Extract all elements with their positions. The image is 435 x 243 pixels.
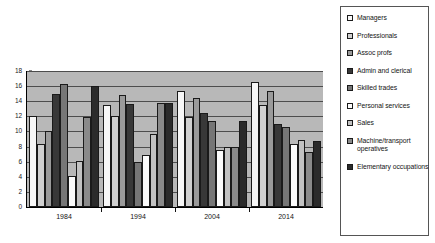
bar	[224, 147, 232, 207]
legend-item: Elementary occupations	[347, 163, 429, 172]
legend-item: Personal services	[347, 102, 429, 111]
legend-item-label: Assoc profs	[357, 49, 392, 58]
bars-layer	[27, 71, 323, 207]
legend-item-label: Elementary occupations	[357, 163, 428, 172]
bar	[239, 121, 247, 207]
legend-item: Admin and clerical	[347, 67, 429, 76]
bar	[111, 116, 119, 207]
legend-item: Machine/transport operatives	[347, 137, 429, 154]
bar	[231, 147, 239, 207]
y-axis-tick-label: 10	[15, 128, 22, 135]
bar	[68, 176, 76, 207]
legend-item: Assoc profs	[347, 49, 429, 58]
bar	[103, 105, 111, 207]
bar	[313, 141, 321, 207]
bar	[165, 103, 173, 207]
y-axis-tick-label: 0	[18, 204, 22, 211]
legend-item-label: Skilled trades	[357, 84, 397, 93]
legend-item: Skilled trades	[347, 84, 429, 93]
legend-item-label: Managers	[357, 14, 387, 23]
bar	[216, 150, 224, 207]
bar	[274, 124, 282, 207]
x-axis-tick-label: 1994	[130, 213, 146, 220]
bar	[185, 117, 193, 207]
y-axis-tick-label: 12	[15, 113, 22, 120]
legend-item-label: Admin and clerical	[357, 67, 412, 76]
x-axis-tick-label: 2014	[278, 213, 294, 220]
legend-item-label: Machine/transport operatives	[357, 137, 429, 154]
bar	[119, 95, 127, 207]
bar	[134, 162, 142, 207]
bar	[251, 82, 259, 207]
legend-swatch-icon	[347, 164, 353, 170]
legend: ManagersProfessionalsAssoc profsAdmin an…	[340, 6, 429, 236]
bar	[126, 104, 134, 207]
bar	[150, 134, 158, 207]
bar-chart: 181614121086420 1984199420042014 Manager…	[0, 0, 435, 243]
legend-swatch-icon	[347, 120, 353, 126]
bar	[298, 140, 306, 207]
bar	[259, 105, 267, 207]
legend-swatch-icon	[347, 103, 353, 109]
legend-item: Professionals	[347, 32, 429, 41]
y-axis-tick-label: 8	[18, 143, 22, 150]
y-axis-tick-label: 2	[18, 189, 22, 196]
x-axis-tick-mark	[101, 208, 102, 212]
legend-item: Managers	[347, 14, 429, 23]
y-axis: 181614121086420	[6, 60, 22, 197]
y-axis-tick-label: 14	[15, 98, 22, 105]
x-axis-tick-label: 2004	[204, 213, 220, 220]
bar	[52, 94, 60, 207]
bar	[76, 161, 84, 207]
legend-item: Sales	[347, 119, 429, 128]
y-axis-tick-label: 16	[15, 83, 22, 90]
legend-item-label: Professionals	[357, 32, 397, 41]
bar	[193, 98, 201, 207]
legend-swatch-icon	[347, 138, 353, 144]
legend-swatch-icon	[347, 68, 353, 74]
legend-item-label: Sales	[357, 119, 374, 128]
bar	[142, 155, 150, 207]
legend-items: ManagersProfessionalsAssoc profsAdmin an…	[347, 14, 429, 180]
x-axis-tick-label: 1984	[56, 213, 72, 220]
bar	[60, 84, 68, 207]
x-axis-tick-mark	[249, 208, 250, 212]
bar	[290, 144, 298, 207]
legend-swatch-icon	[347, 50, 353, 56]
y-axis-tick-label: 18	[15, 68, 22, 75]
bar	[91, 86, 99, 207]
bar	[29, 116, 37, 207]
bar	[37, 144, 45, 207]
plot-area	[27, 71, 323, 207]
plot-region: 181614121086420 1984199420042014	[0, 60, 330, 230]
bar	[267, 91, 275, 207]
legend-swatch-icon	[347, 33, 353, 39]
legend-swatch-icon	[347, 85, 353, 91]
bar	[200, 113, 208, 207]
y-axis-tick-label: 4	[18, 174, 22, 181]
bar	[282, 127, 290, 207]
bar	[177, 91, 185, 207]
bar	[83, 117, 91, 207]
bar	[45, 131, 53, 207]
bar	[208, 121, 216, 207]
legend-item-label: Personal services	[357, 102, 410, 111]
legend-swatch-icon	[347, 15, 353, 21]
bar	[157, 103, 165, 207]
bar	[305, 152, 313, 207]
y-axis-tick-label: 6	[18, 158, 22, 165]
x-axis-tick-mark	[175, 208, 176, 212]
